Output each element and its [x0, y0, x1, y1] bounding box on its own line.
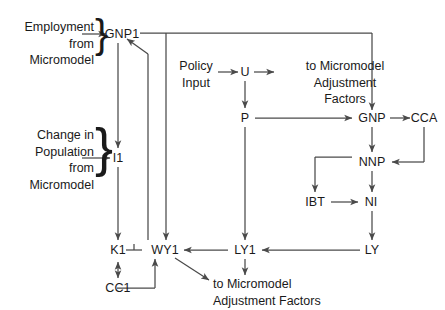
- node-cc1[interactable]: CC1: [105, 281, 130, 296]
- policy-input-label: Policy Input: [179, 58, 212, 91]
- population-brace-icon: }: [95, 120, 113, 174]
- output-bottom-line-2: Adjustment Factors: [213, 293, 321, 310]
- output-bottom-label: to Micromodel Adjustment Factors: [213, 276, 321, 309]
- employment-input-line-1: Employment: [8, 19, 94, 36]
- employment-input-line-3: Micromodel: [8, 52, 94, 69]
- node-nnp[interactable]: NNP: [359, 155, 386, 170]
- node-k1[interactable]: K1: [110, 243, 126, 258]
- flow-diagram: Employment from Micromodel } Change in P…: [0, 0, 445, 310]
- node-ly1[interactable]: LY1: [234, 243, 256, 258]
- output-bottom-line-1: to Micromodel: [213, 276, 321, 293]
- node-gnp[interactable]: GNP: [358, 111, 385, 126]
- output-top-label: to Micromodel Adjustment Factors: [306, 58, 385, 108]
- population-input-line-4: Micromodel: [8, 177, 94, 194]
- node-ibt[interactable]: IBT: [305, 195, 325, 210]
- population-input-line-1: Change in: [8, 127, 94, 144]
- node-ni[interactable]: NI: [365, 195, 378, 210]
- node-ly[interactable]: LY: [365, 243, 380, 258]
- employment-input-label: Employment from Micromodel: [8, 19, 94, 69]
- output-top-line-2: Adjustment: [306, 75, 385, 92]
- node-p[interactable]: P: [241, 111, 249, 126]
- population-input-line-2: Population: [8, 144, 94, 161]
- employment-input-line-2: from: [8, 36, 94, 53]
- population-input-label: Change in Population from Micromodel: [8, 127, 94, 193]
- policy-input-line-2: Input: [179, 75, 212, 92]
- node-i1[interactable]: I1: [113, 151, 124, 166]
- output-top-line-1: to Micromodel: [306, 58, 385, 75]
- policy-input-line-1: Policy: [179, 58, 212, 75]
- node-gnp1[interactable]: GNP1: [105, 27, 139, 42]
- population-input-line-3: from: [8, 160, 94, 177]
- node-cca[interactable]: CCA: [411, 111, 438, 126]
- node-u[interactable]: U: [240, 65, 249, 80]
- edge-wy1-to-output-bottom: [175, 258, 209, 280]
- node-wy1[interactable]: WY1: [151, 243, 178, 258]
- output-top-line-3: Factors: [306, 91, 385, 108]
